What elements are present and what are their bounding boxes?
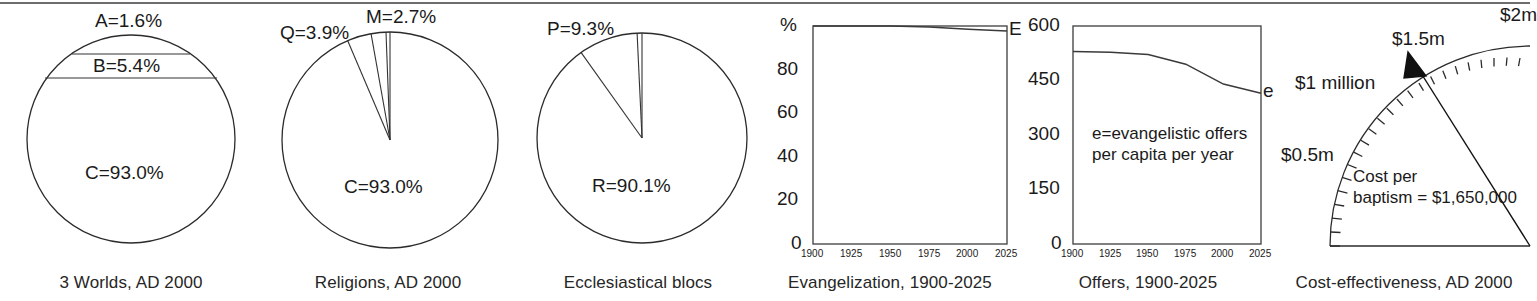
pie-label-q: Q=3.9% [280,22,349,44]
panel-caption-religions: Religions, AD 2000 [262,273,514,293]
x-tick-label-1950: 1950 [1136,248,1158,259]
y-tick-label-150: 150 [1028,177,1060,199]
offers-annotation-line1: e=evangelistic offers [1092,123,1247,144]
y-tick-label-600: 600 [1028,14,1060,36]
panel-offers: 600 450 300 150 0 1900 1925 1950 1975 20… [1018,0,1278,301]
y-tick-label-0: 0 [791,232,802,254]
panel-caption-offers: Offers, 1900-2025 [1018,273,1278,293]
y-tick-label-60: 60 [777,101,798,123]
gauge-readout-line1: Cost per [1353,166,1417,187]
gauge-label-two-million: $2m [1500,4,1537,26]
pie-label-p: P=9.3% [547,18,614,40]
panel-three-worlds: A=1.6% B=5.4% C=93.0% 3 Worlds, AD 2000 [0,0,262,301]
x-tick-label-2025: 2025 [995,248,1017,259]
panel-evangelization: % 80 60 40 20 0 1900 1925 1950 1975 2000… [762,0,1018,301]
panel-religions: Q=3.9% M=2.7% C=93.0% Religions, AD 2000 [262,0,514,301]
x-tick-label-1900: 1900 [801,248,823,259]
y-tick-label-80: 80 [777,58,798,80]
pie-label-r: R=90.1% [592,175,671,197]
offers-annotation-line2: per capita per year [1092,144,1234,165]
panel-cost-effectiveness: $0.5m $1 million $1.5m $2m Cost per bapt… [1278,0,1530,301]
three-worlds-segment-circle [0,0,262,301]
x-tick-label-2000: 2000 [1211,248,1233,259]
x-tick-label-1975: 1975 [1174,248,1196,259]
y-tick-label-20: 20 [777,188,798,210]
segment-label-a: A=1.6% [95,10,162,32]
pie-label-m: M=2.7% [366,6,436,28]
panel-ecclesiastical-blocs: P=9.3% R=90.1% Ecclesiastical blocs [514,0,762,301]
x-tick-label-1975: 1975 [918,248,940,259]
gauge-label-one-point-five: $1.5m [1392,28,1445,50]
gauge-label-half: $0.5m [1281,144,1334,166]
y-tick-label-100: % [780,14,797,36]
x-tick-label-1950: 1950 [879,248,901,259]
ecclesiastical-blocs-pie [514,0,762,301]
segment-label-b: B=5.4% [93,55,160,77]
series-label-e: e [1263,80,1274,102]
y-tick-label-300: 300 [1028,123,1060,145]
gauge-readout-line2: baptism = $1,650,000 [1353,187,1517,208]
panel-caption-three-worlds: 3 Worlds, AD 2000 [0,273,262,293]
x-tick-label-2025: 2025 [1249,248,1271,259]
x-tick-label-1925: 1925 [840,248,862,259]
religions-pie [262,0,514,301]
panel-caption-cost-effectiveness: Cost-effectiveness, AD 2000 [1278,273,1530,293]
x-tick-label-1925: 1925 [1099,248,1121,259]
gauge-label-one-million: $1 million [1295,72,1375,94]
y-tick-label-0: 0 [1051,232,1062,254]
segment-label-c: C=93.0% [85,162,164,184]
panel-caption-ecclesiastical-blocs: Ecclesiastical blocs [514,273,762,293]
y-tick-label-40: 40 [777,145,798,167]
pie-label-c: C=93.0% [344,176,423,198]
x-tick-label-1900: 1900 [1061,248,1083,259]
y-tick-label-450: 450 [1028,68,1060,90]
x-tick-label-2000: 2000 [956,248,978,259]
panel-caption-evangelization: Evangelization, 1900-2025 [762,273,1018,293]
